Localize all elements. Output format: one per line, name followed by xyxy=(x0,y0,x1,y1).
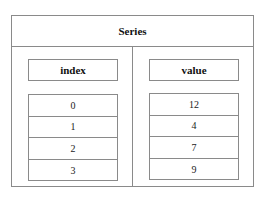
index-column-header: index xyxy=(28,59,118,81)
value-cell: 7 xyxy=(150,137,238,159)
index-cell: 2 xyxy=(29,138,117,160)
value-column-header: value xyxy=(149,59,239,81)
value-cell: 4 xyxy=(150,116,238,138)
value-column-table: 12 4 7 9 xyxy=(149,93,239,180)
index-cell: 1 xyxy=(29,117,117,139)
value-cell: 12 xyxy=(150,94,238,116)
series-diagram: Series index 0 1 2 3 value 12 4 7 9 xyxy=(11,15,254,187)
value-cell: 9 xyxy=(150,159,238,181)
column-divider xyxy=(132,47,133,187)
index-cell: 3 xyxy=(29,160,117,182)
index-cell: 0 xyxy=(29,95,117,117)
index-column-table: 0 1 2 3 xyxy=(28,94,118,181)
series-title: Series xyxy=(12,16,253,47)
